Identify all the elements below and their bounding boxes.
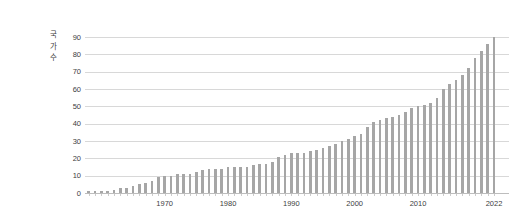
x-axis-tick: [342, 194, 343, 196]
x-axis-tick: [165, 194, 166, 196]
y-tick-label-10: 10: [54, 171, 81, 180]
bar-2019: [474, 58, 477, 193]
x-axis-tick: [222, 194, 223, 196]
bar-2000: [353, 136, 356, 193]
x-axis-tick: [418, 194, 419, 196]
y-tick-label-90: 90: [54, 33, 81, 42]
bar-2006: [391, 117, 394, 193]
y-tick-label-30: 30: [54, 137, 81, 146]
x-axis-tick: [95, 194, 96, 196]
x-axis-tick: [190, 194, 191, 196]
bar-2001: [360, 134, 363, 193]
x-axis-tick: [285, 194, 286, 196]
gridline-40: [85, 124, 509, 125]
bar-chart: 국가수 0102030405060708090 1970198019902000…: [40, 16, 513, 221]
x-axis-tick: [298, 194, 299, 196]
bar-1982: [239, 167, 242, 193]
x-axis-tick: [374, 194, 375, 196]
bar-2008: [404, 112, 407, 193]
x-axis-tick: [171, 194, 172, 196]
bar-1997: [334, 144, 337, 193]
y-tick-label-20: 20: [54, 154, 81, 163]
x-axis-tick: [127, 194, 128, 196]
x-axis-tick: [203, 194, 204, 196]
x-axis-tick: [361, 194, 362, 196]
x-axis-tick: [114, 194, 115, 196]
x-axis-tick: [456, 194, 457, 196]
bar-2009: [410, 108, 413, 193]
x-axis-tick: [241, 194, 242, 196]
bar-1986: [265, 164, 268, 193]
x-axis-tick: [152, 194, 153, 196]
x-axis-tick: [317, 194, 318, 196]
gridline-50: [85, 106, 509, 107]
gridline-80: [85, 54, 509, 55]
x-axis-tick: [228, 194, 229, 196]
x-axis-tick: [253, 194, 254, 196]
bar-1993: [309, 151, 312, 193]
bar-1973: [182, 174, 185, 193]
x-axis-tick: [405, 194, 406, 196]
x-axis-tick: [348, 194, 349, 196]
bar-2010: [417, 106, 420, 193]
bar-1979: [220, 169, 223, 193]
x-axis-tick: [481, 194, 482, 196]
y-tick-label-40: 40: [54, 119, 81, 128]
x-axis-tick: [494, 194, 495, 196]
x-axis-tick: [488, 194, 489, 196]
bar-1965: [132, 186, 135, 193]
bar-1995: [322, 148, 325, 193]
x-axis-tick: [279, 194, 280, 196]
x-axis-tick: [323, 194, 324, 196]
bar-2002: [366, 127, 369, 193]
x-axis-tick: [291, 194, 292, 196]
x-axis-tick: [424, 194, 425, 196]
bar-1984: [252, 165, 255, 193]
x-axis-tick: [475, 194, 476, 196]
bar-1966: [138, 184, 141, 193]
bar-1972: [176, 174, 179, 193]
x-axis-tick: [310, 194, 311, 196]
x-axis-tick: [443, 194, 444, 196]
y-tick-label-60: 60: [54, 85, 81, 94]
x-axis-tick: [146, 194, 147, 196]
bar-2003: [372, 122, 375, 193]
bar-1998: [341, 141, 344, 193]
x-axis-tick: [336, 194, 337, 196]
gridline-90: [85, 37, 509, 38]
bar-1989: [284, 155, 287, 193]
gridline-70: [85, 72, 509, 73]
x-axis-tick: [450, 194, 451, 196]
x-axis-tick: [266, 194, 267, 196]
x-axis-tick: [355, 194, 356, 196]
y-tick-label-80: 80: [54, 50, 81, 59]
bar-1975: [195, 172, 198, 193]
x-axis-tick: [139, 194, 140, 196]
bar-1983: [246, 167, 249, 193]
bar-1967: [144, 183, 147, 193]
x-axis-tick: [412, 194, 413, 196]
x-axis-tick: [158, 194, 159, 196]
x-axis-tick: [399, 194, 400, 196]
bar-2014: [442, 89, 445, 193]
x-axis-tick: [196, 194, 197, 196]
x-axis-tick: [469, 194, 470, 196]
x-axis-tick: [380, 194, 381, 196]
bar-2007: [398, 115, 401, 193]
y-tick-label-70: 70: [54, 67, 81, 76]
x-tick-label-1980: 1980: [212, 199, 244, 208]
x-tick-label-2010: 2010: [402, 199, 434, 208]
bar-1969: [157, 177, 160, 193]
bar-1994: [315, 150, 318, 193]
x-axis-tick: [184, 194, 185, 196]
bar-1999: [347, 139, 350, 193]
plot-area: [85, 37, 509, 193]
x-tick-label-2000: 2000: [339, 199, 371, 208]
bar-2013: [436, 98, 439, 193]
x-axis-tick: [133, 194, 134, 196]
x-axis-tick: [272, 194, 273, 196]
bar-1996: [328, 146, 331, 193]
x-tick-label-2022: 2022: [478, 199, 510, 208]
x-axis-tick: [462, 194, 463, 196]
bar-2005: [385, 118, 388, 193]
